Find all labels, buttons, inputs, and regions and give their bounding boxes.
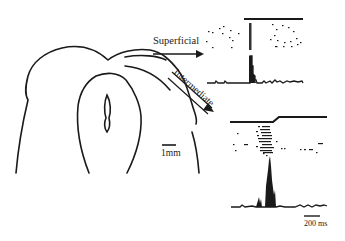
anatomy-scale-bar: 1mm	[161, 145, 181, 158]
panel-superficial	[206, 19, 303, 83]
histogram-peak	[256, 156, 276, 207]
panel-intermediate	[230, 117, 327, 207]
lamina-line-2	[125, 66, 170, 90]
outer-contour-right	[192, 132, 199, 173]
scale-label-1mm: 1mm	[161, 148, 181, 158]
lamina-line-1	[125, 56, 166, 60]
stimulus-trace	[230, 117, 327, 122]
superficial-arrow: Superficial	[153, 35, 204, 58]
central-canal	[105, 95, 111, 132]
figure: 1mm Superficial Intermediate	[0, 0, 345, 241]
raster	[233, 126, 323, 156]
scale-label-200ms: 200 ms	[304, 219, 327, 228]
label-superficial: Superficial	[153, 35, 199, 46]
raster	[206, 23, 302, 50]
histogram-baseline	[231, 205, 327, 207]
time-scale-bar: 200 ms	[304, 216, 327, 228]
diagram-canvas: 1mm Superficial Intermediate	[0, 0, 345, 241]
